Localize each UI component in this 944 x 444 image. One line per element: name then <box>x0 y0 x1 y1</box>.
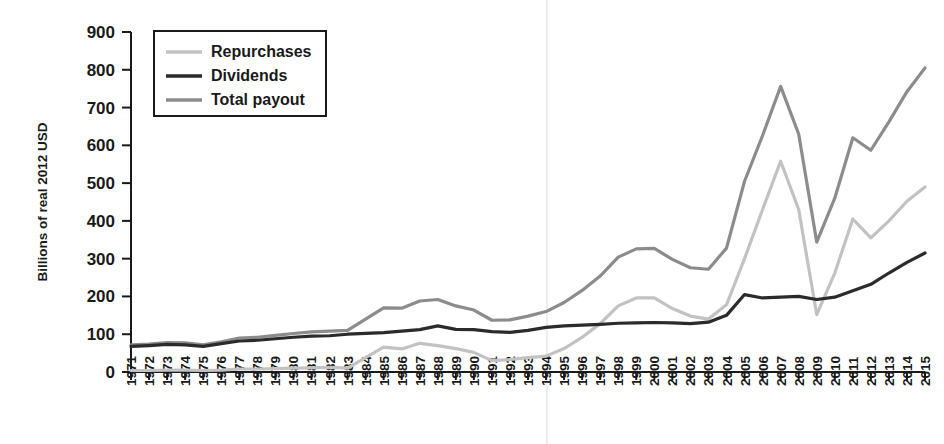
x-tick-label: 1978 <box>250 355 265 386</box>
chart-legend: RepurchasesDividendsTotal payout <box>154 31 326 116</box>
x-tick-label: 1995 <box>557 355 572 386</box>
x-tick-label: 2007 <box>774 356 789 386</box>
y-tick-label: 900 <box>87 23 115 42</box>
x-tick-label: 2009 <box>810 356 825 386</box>
x-tick-label: 2002 <box>683 356 698 386</box>
x-tick-label: 2012 <box>864 356 879 386</box>
x-tick-label: 1988 <box>431 355 446 386</box>
x-tick-label: 1999 <box>629 356 644 386</box>
y-tick-label: 500 <box>87 174 115 193</box>
x-tick-label: 1987 <box>413 356 428 386</box>
x-tick-label: 1986 <box>395 355 410 386</box>
x-tick-label: 1990 <box>467 356 482 386</box>
x-tick-label: 1981 <box>304 355 319 386</box>
x-tick-label: 2015 <box>918 355 933 386</box>
x-tick-label: 1997 <box>593 356 608 386</box>
x-tick-label: 1985 <box>377 355 392 386</box>
x-tick-label: 1993 <box>521 355 536 386</box>
x-tick-label: 2003 <box>701 355 716 386</box>
x-tick-label: 1996 <box>575 355 590 386</box>
x-tick-label: 2010 <box>828 356 843 386</box>
y-tick-label: 100 <box>87 325 115 344</box>
x-tick-label: 1989 <box>449 356 464 386</box>
y-tick-label: 800 <box>87 61 115 80</box>
x-tick-label: 2000 <box>647 356 662 386</box>
y-tick-label: 400 <box>87 212 115 231</box>
legend-label-total-payout: Total payout <box>211 91 306 108</box>
x-tick-label: 1977 <box>232 356 247 386</box>
y-tick-label: 700 <box>87 99 115 118</box>
x-tick-label: 2006 <box>756 355 771 386</box>
y-tick-label: 300 <box>87 250 115 269</box>
chart-container: 0100200300400500600700800900 19711972197… <box>0 0 944 444</box>
y-axis-title: Billions of real 2012 USD <box>35 122 50 281</box>
x-tick-label: 2008 <box>792 355 807 386</box>
x-tick-label: 2013 <box>882 355 897 386</box>
x-axis: 1971197219731974197519761977197819791980… <box>124 355 933 386</box>
x-tick-label: 2011 <box>846 356 861 386</box>
x-tick-label: 2014 <box>900 355 915 386</box>
y-tick-label: 0 <box>106 363 115 382</box>
payout-line-chart: 0100200300400500600700800900 19711972197… <box>0 0 944 444</box>
legend-label-dividends: Dividends <box>211 67 288 84</box>
x-tick-label: 1994 <box>539 355 554 386</box>
x-tick-label: 2001 <box>665 355 680 386</box>
x-tick-label: 1983 <box>341 355 356 386</box>
x-tick-label: 1980 <box>286 356 301 386</box>
x-tick-label: 1979 <box>268 356 283 386</box>
x-tick-label: 2004 <box>720 355 735 386</box>
x-tick-label: 1998 <box>611 355 626 386</box>
y-tick-label: 200 <box>87 287 115 306</box>
x-tick-label: 2005 <box>738 355 753 386</box>
legend-label-repurchases: Repurchases <box>211 43 312 60</box>
y-tick-label: 600 <box>87 136 115 155</box>
x-tick-label: 1982 <box>323 356 338 386</box>
